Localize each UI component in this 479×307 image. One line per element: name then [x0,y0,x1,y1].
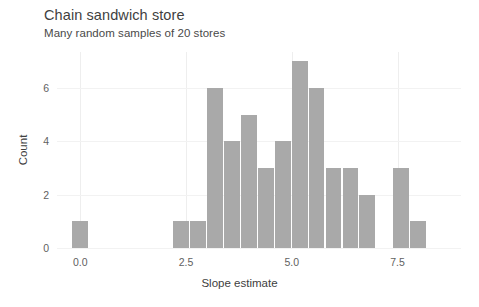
y-gridline [57,248,461,249]
histogram-bars [57,52,461,248]
y-tick-label: 6 [29,82,49,94]
histogram-bar [393,168,409,248]
histogram-bar [72,221,88,248]
histogram-bar [224,141,240,248]
histogram-bar [207,88,223,248]
histogram-bar [326,168,342,248]
x-tick-label: 7.5 [390,256,405,268]
chart-figure: Chain sandwich store Many random samples… [0,0,479,307]
x-tick-label: 5.0 [284,256,299,268]
histogram-bar [343,168,359,248]
histogram-bar [309,88,325,248]
x-tick-label: 2.5 [179,256,194,268]
plot-panel [57,52,461,248]
page-title: Chain sandwich store [44,6,464,24]
y-tick-label: 4 [29,135,49,147]
x-axis-label: Slope estimate [0,277,479,289]
histogram-bar [292,61,308,248]
histogram-bar [359,195,375,248]
y-axis-label: Count [17,135,29,166]
title-block: Chain sandwich store Many random samples… [44,6,464,41]
chart-subtitle: Many random samples of 20 stores [44,26,464,41]
histogram-bar [241,115,257,248]
histogram-bar [190,221,206,248]
y-tick-label: 0 [29,242,49,254]
x-tick-label: 0.0 [73,256,88,268]
histogram-bar [410,221,426,248]
histogram-bar [173,221,189,248]
histogram-bar [275,141,291,248]
histogram-bar [258,168,274,248]
y-tick-label: 2 [29,189,49,201]
